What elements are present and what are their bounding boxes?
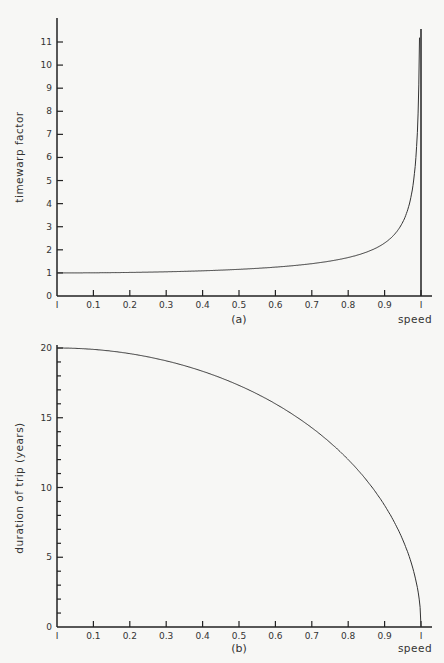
x-tick-label: I xyxy=(420,631,423,641)
x-tick-label: I xyxy=(56,631,59,641)
y-tick-label: 3 xyxy=(46,222,52,232)
x-tick-label: 0.2 xyxy=(123,631,137,641)
x-tick-label: 0.5 xyxy=(232,631,246,641)
chart-timewarp-factor: 01234567891011 I0.10.20.30.40.50.60.70.8… xyxy=(13,18,432,326)
y-tick-label: 15 xyxy=(41,413,52,423)
figure: 01234567891011 I0.10.20.30.40.50.60.70.8… xyxy=(0,0,444,663)
y-tick-label: 5 xyxy=(46,552,52,562)
x-tick-label: 0.1 xyxy=(86,631,100,641)
y-axis-title: duration of trip (years) xyxy=(13,422,25,553)
y-ticks: 05101520 xyxy=(41,343,63,632)
x-tick-label: 0.8 xyxy=(341,631,356,641)
x-tick-label: 0.7 xyxy=(305,300,319,310)
x-tick-label: 0.9 xyxy=(377,631,392,641)
y-tick-label: 0 xyxy=(46,291,52,301)
x-tick-label: 0.4 xyxy=(195,631,210,641)
x-tick-label: 0.4 xyxy=(195,300,210,310)
y-tick-label: 10 xyxy=(41,483,53,493)
x-tick-label: I xyxy=(56,300,59,310)
y-tick-label: 11 xyxy=(41,37,52,47)
x-tick-label: 0.9 xyxy=(377,300,392,310)
x-tick-label: 0.6 xyxy=(268,300,283,310)
x-tick-label: 0.6 xyxy=(268,631,283,641)
y-tick-label: 8 xyxy=(46,106,52,116)
x-tick-label: 0.1 xyxy=(86,300,100,310)
x-axis-title: speed xyxy=(398,642,432,654)
timewarp-curve xyxy=(57,38,420,273)
caption-b: (b) xyxy=(231,642,247,655)
y-tick-label: 4 xyxy=(46,199,52,209)
x-tick-label: 0.3 xyxy=(159,300,173,310)
chart-trip-duration: 05101520 I0.10.20.30.40.50.60.70.80.9I d… xyxy=(13,343,432,655)
x-tick-label: 0.7 xyxy=(305,631,319,641)
x-tick-label: 0.2 xyxy=(123,300,137,310)
x-tick-label: 0.8 xyxy=(341,300,356,310)
y-tick-label: 7 xyxy=(46,129,52,139)
y-tick-label: 6 xyxy=(46,152,52,162)
x-ticks: I0.10.20.30.40.50.60.70.80.9I xyxy=(56,621,423,641)
y-tick-label: 0 xyxy=(46,622,52,632)
y-tick-label: 1 xyxy=(46,268,52,278)
y-tick-label: 9 xyxy=(46,83,52,93)
y-tick-label: 2 xyxy=(46,245,52,255)
y-tick-label: 20 xyxy=(41,343,53,353)
x-tick-label: 0.3 xyxy=(159,631,173,641)
y-tick-label: 5 xyxy=(46,176,52,186)
x-ticks: I0.10.20.30.40.50.60.70.80.9I xyxy=(56,290,423,310)
x-axis-title: speed xyxy=(398,313,432,325)
duration-curve xyxy=(57,348,421,627)
x-tick-label: 0.5 xyxy=(232,300,246,310)
y-axis-title: timewarp factor xyxy=(13,111,25,203)
y-ticks: 01234567891011 xyxy=(41,37,63,301)
x-tick-label: I xyxy=(420,300,423,310)
caption-a: (a) xyxy=(231,313,246,326)
y-tick-label: 10 xyxy=(41,60,53,70)
